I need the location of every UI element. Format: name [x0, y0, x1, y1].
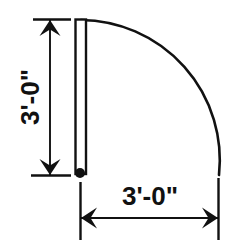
drawing-canvas: 3'-0" 3'-0" — [0, 0, 248, 250]
door-swing-drawing: 3'-0" 3'-0" — [0, 0, 248, 250]
door-panel — [76, 20, 87, 175]
vertical-dimension-label: 3'-0" — [15, 69, 45, 125]
hinge-pivot-icon — [75, 168, 85, 178]
door-panel-group — [76, 20, 87, 175]
horizontal-dimension-label: 3'-0" — [122, 181, 178, 211]
